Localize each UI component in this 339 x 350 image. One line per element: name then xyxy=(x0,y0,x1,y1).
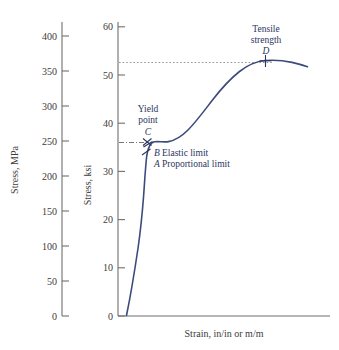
chart-canvas: 0 50 100 150 200 250 300 350 400 Stress,… xyxy=(0,0,339,350)
ksi-tick-label-50: 50 xyxy=(103,70,113,81)
point-label-b: B xyxy=(154,148,160,158)
mpa-tick-label-0: 0 xyxy=(52,311,57,322)
mpa-tick-label-100: 100 xyxy=(42,241,57,252)
yield-point-label-line2: point xyxy=(138,115,158,125)
mpa-tick-label-350: 350 xyxy=(42,66,57,77)
stress-strain-diagram: 0 50 100 150 200 250 300 350 400 Stress,… xyxy=(0,0,339,350)
mpa-axis-group: 0 50 100 150 200 250 300 350 400 Stress,… xyxy=(9,22,69,322)
yield-point-label-line1: Yield xyxy=(138,104,159,114)
elastic-limit-text: Elastic limit xyxy=(162,148,209,158)
ksi-tick-label-40: 40 xyxy=(103,118,113,129)
ksi-axis-title: Stress, ksi xyxy=(82,164,93,205)
mpa-axis-title: Stress, MPa xyxy=(9,146,20,194)
annotation-elastic-limit: B Elastic limit xyxy=(154,148,209,158)
point-label-c: C xyxy=(145,127,152,137)
x-axis-title: Strain, in/in or m/m xyxy=(185,328,264,339)
ksi-axis-group: 0 10 20 30 40 50 60 Stress, ksi xyxy=(82,21,125,321)
annotation-yield-point: Yield point C xyxy=(138,104,159,137)
tensile-strength-label-line2: strength xyxy=(251,35,282,45)
mpa-tick-label-150: 150 xyxy=(42,206,57,217)
point-markers-group xyxy=(142,55,272,155)
ksi-tick-label-0: 0 xyxy=(108,311,113,322)
ksi-tick-label-30: 30 xyxy=(103,166,113,177)
proportional-limit-text: Proportional limit xyxy=(162,159,230,169)
annotation-proportional-limit: A Proportional limit xyxy=(153,159,230,169)
tensile-strength-label-line1: Tensile xyxy=(252,24,279,34)
mpa-tick-label-300: 300 xyxy=(42,101,57,112)
guide-lines-group xyxy=(119,63,273,143)
mpa-tick-label-400: 400 xyxy=(42,31,57,42)
point-label-d: D xyxy=(262,46,270,56)
x-axis-group: Strain, in/in or m/m xyxy=(118,316,330,339)
ksi-tick-label-10: 10 xyxy=(103,262,113,273)
annotation-tensile-strength: Tensile strength D xyxy=(251,24,282,56)
ksi-tick-label-60: 60 xyxy=(103,21,113,32)
point-label-a: A xyxy=(153,159,160,169)
stress-strain-curve-group xyxy=(127,60,308,315)
mpa-tick-label-50: 50 xyxy=(47,276,57,287)
mpa-tick-label-200: 200 xyxy=(42,171,57,182)
mpa-tick-label-250: 250 xyxy=(42,136,57,147)
ksi-tick-label-20: 20 xyxy=(103,214,113,225)
curve-path xyxy=(127,60,308,315)
